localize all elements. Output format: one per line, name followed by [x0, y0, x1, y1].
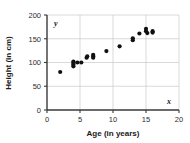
data-point: [131, 36, 135, 40]
y-axis-letter: y: [53, 19, 58, 28]
x-tick-label: 10: [109, 115, 117, 124]
data-point: [104, 49, 108, 53]
y-tick-label: 50: [33, 82, 41, 91]
data-point: [79, 60, 83, 64]
data-point: [75, 60, 79, 64]
data-point: [58, 70, 62, 74]
data-points: [58, 27, 155, 74]
data-point: [145, 31, 149, 35]
x-axis-letter: x: [166, 97, 171, 106]
scatter-plot-canvas: 05101520 050100150200 y x Age (in years)…: [0, 0, 190, 143]
y-tick-label: 200: [28, 11, 41, 20]
x-tick-label: 0: [45, 115, 49, 124]
x-axis-ticks: 05101520: [45, 110, 183, 124]
x-axis-title: Age (in years): [87, 129, 140, 138]
x-tick-label: 5: [78, 115, 82, 124]
data-point: [144, 27, 148, 31]
y-axis-title: Height (in cm): [4, 36, 13, 90]
data-point: [85, 54, 89, 58]
data-point: [151, 29, 155, 33]
y-tick-label: 100: [28, 58, 41, 67]
data-point: [118, 44, 122, 48]
scatter-chart-figure: 05101520 050100150200 y x Age (in years)…: [0, 0, 190, 143]
x-tick-label: 20: [175, 115, 183, 124]
x-tick-label: 15: [142, 115, 150, 124]
data-point: [91, 53, 95, 57]
data-point: [71, 59, 75, 63]
y-axis-ticks: 050100150200: [28, 11, 47, 115]
data-point: [137, 31, 141, 35]
y-tick-label: 0: [37, 106, 41, 115]
gridlines: [47, 15, 179, 110]
y-tick-label: 150: [28, 35, 41, 44]
